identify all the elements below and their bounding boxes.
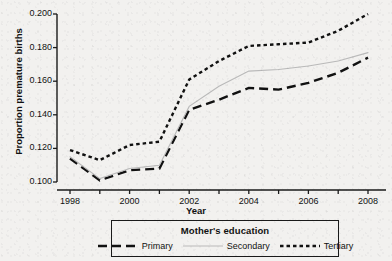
x-tick-label: 2006	[283, 196, 333, 206]
legend-entry-primary: Primary	[97, 241, 173, 251]
y-tick-label: 0.140	[10, 109, 52, 119]
legend: Mother's education PrimarySecondaryTerti…	[111, 220, 339, 257]
y-tick-label: 0.180	[10, 42, 52, 52]
legend-entry-secondary: Secondary	[182, 241, 270, 251]
y-tick-label: 0.100	[10, 176, 52, 186]
x-tick-label: 2004	[224, 196, 274, 206]
y-tick-label: 0.160	[10, 75, 52, 85]
legend-swatch-tertiary	[279, 241, 321, 251]
legend-swatch-primary	[97, 241, 139, 251]
x-tick-label: 2002	[164, 196, 214, 206]
y-axis-label-container: Proportion premature births	[0, 0, 18, 196]
x-tick-label: 1998	[45, 196, 95, 206]
series-line-secondary	[70, 53, 368, 179]
x-tick-label: 2008	[343, 196, 392, 206]
legend-label: Primary	[142, 241, 173, 251]
x-tick-label: 2000	[105, 196, 155, 206]
x-axis-label: Year	[0, 205, 392, 216]
y-tick-label: 0.120	[10, 142, 52, 152]
legend-entry-tertiary: Tertiary	[279, 241, 354, 251]
legend-entries: PrimarySecondaryTertiary	[112, 241, 338, 251]
y-tick-label: 0.200	[10, 8, 52, 18]
legend-title: Mother's education	[112, 225, 338, 236]
legend-label: Secondary	[227, 241, 270, 251]
legend-swatch-secondary	[182, 241, 224, 251]
series-line-primary	[70, 58, 368, 181]
legend-label: Tertiary	[324, 241, 354, 251]
chart-figure: Proportion premature births Year 0.1000.…	[0, 0, 392, 261]
series-line-tertiary	[70, 14, 368, 160]
